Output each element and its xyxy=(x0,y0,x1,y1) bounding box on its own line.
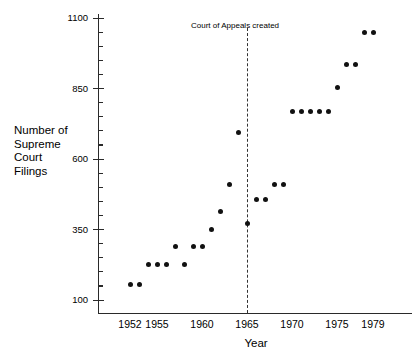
y-axis-minor-tick xyxy=(98,285,103,286)
scatter-point xyxy=(182,262,187,267)
scatter-point xyxy=(191,244,196,249)
vertical-dashed-line xyxy=(247,28,248,313)
scatter-point xyxy=(317,109,322,114)
scatter-point xyxy=(326,109,331,114)
scatter-point xyxy=(290,109,295,114)
y-axis-tick-label: 600 xyxy=(54,153,88,164)
scatter-point xyxy=(218,209,223,214)
scatter-point xyxy=(200,244,205,249)
scatter-point xyxy=(272,182,277,187)
annotation-court-of-appeals-created: Court of Appeals created xyxy=(191,21,279,30)
scatter-point xyxy=(263,197,268,202)
scatter-point xyxy=(164,262,169,267)
scatter-point xyxy=(362,30,367,35)
y-axis-minor-tick xyxy=(98,116,103,117)
y-axis-minor-tick xyxy=(98,201,103,202)
y-axis-minor-tick xyxy=(98,271,103,272)
y-axis-major-tick xyxy=(93,300,104,301)
y-axis-minor-tick xyxy=(98,102,103,103)
y-axis-major-tick xyxy=(93,18,104,19)
y-axis-minor-tick xyxy=(98,215,103,216)
scatter-chart-figure: Number of Supreme Court Filings 10035060… xyxy=(0,0,420,358)
x-axis-tick-label: 1979 xyxy=(353,318,393,330)
y-axis-minor-tick xyxy=(98,60,103,61)
scatter-point xyxy=(254,197,259,202)
y-axis-major-tick xyxy=(93,159,104,160)
x-axis-tick-label: 1955 xyxy=(137,318,177,330)
y-axis-tick-label: 350 xyxy=(54,224,88,235)
scatter-point xyxy=(371,30,376,35)
y-axis-minor-tick xyxy=(98,32,103,33)
y-axis-minor-tick xyxy=(98,74,103,75)
scatter-point xyxy=(236,130,241,135)
scatter-point xyxy=(344,62,349,67)
x-axis-title: Year xyxy=(226,337,286,349)
y-axis-tick-label: 850 xyxy=(54,83,88,94)
x-axis-tick-label: 1970 xyxy=(272,318,312,330)
x-axis-tick-label: 1975 xyxy=(317,318,357,330)
y-axis-minor-tick xyxy=(98,243,103,244)
scatter-point xyxy=(128,282,133,287)
y-axis-minor-tick xyxy=(98,144,103,145)
scatter-point xyxy=(173,244,178,249)
scatter-point xyxy=(137,282,142,287)
y-axis-minor-tick xyxy=(98,46,103,47)
scatter-point xyxy=(227,182,232,187)
scatter-point xyxy=(299,109,304,114)
y-axis-title: Number of Supreme Court Filings xyxy=(14,124,92,178)
scatter-point xyxy=(335,85,340,90)
y-axis-minor-tick xyxy=(98,130,103,131)
x-axis-tick-label: 1965 xyxy=(227,318,267,330)
y-axis-minor-tick xyxy=(98,187,103,188)
y-axis-minor-tick xyxy=(98,173,103,174)
y-axis-tick-label: 100 xyxy=(54,294,88,305)
y-axis-tick-label: 1100 xyxy=(54,12,88,23)
x-axis-tick-label: 1960 xyxy=(182,318,222,330)
scatter-point xyxy=(308,109,313,114)
y-axis-major-tick xyxy=(93,88,104,89)
scatter-point xyxy=(281,182,286,187)
scatter-point xyxy=(146,262,151,267)
scatter-point xyxy=(209,227,214,232)
y-axis-minor-tick xyxy=(98,257,103,258)
y-axis-major-tick xyxy=(93,229,104,230)
x-axis-line xyxy=(98,313,412,314)
scatter-point xyxy=(155,262,160,267)
scatter-point xyxy=(245,221,250,226)
scatter-point xyxy=(353,62,358,67)
